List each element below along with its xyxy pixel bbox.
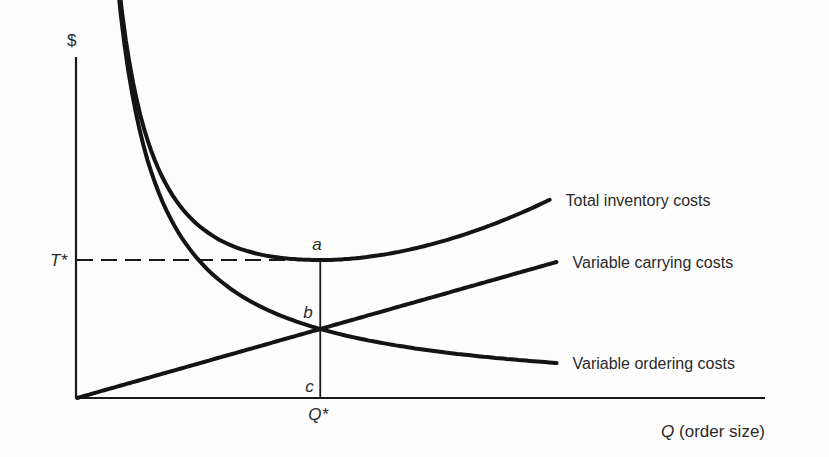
annotation-b: b xyxy=(303,303,312,322)
legend-variable-ordering-costs: Variable ordering costs xyxy=(573,355,735,372)
series-total-inventory-costs xyxy=(119,0,550,260)
annotation-a: a xyxy=(312,235,321,254)
axes xyxy=(76,57,765,398)
chart: $ Q (order size) Total inventory costs V… xyxy=(0,0,829,457)
annotation-t-star: T* xyxy=(50,251,68,270)
legend-total-inventory-costs: Total inventory costs xyxy=(566,192,711,209)
y-axis-label: $ xyxy=(67,31,77,50)
annotation-q-star: Q* xyxy=(308,405,329,424)
legend-variable-carrying-costs: Variable carrying costs xyxy=(573,254,734,271)
x-axis-desc: (order size) xyxy=(674,422,765,441)
x-axis-label: Q (order size) xyxy=(661,422,765,441)
x-axis-var: Q xyxy=(661,422,674,441)
annotation-c: c xyxy=(305,377,314,396)
